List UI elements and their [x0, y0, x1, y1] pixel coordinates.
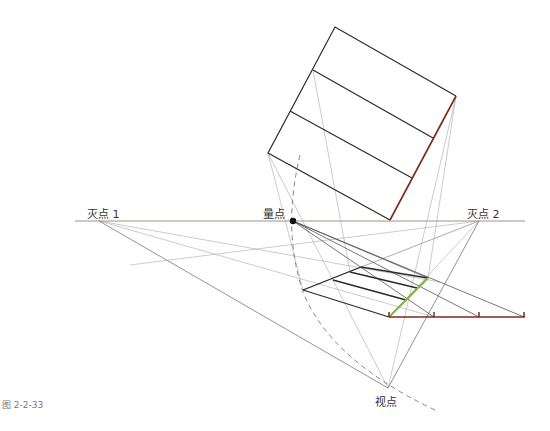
measure-point-dot [290, 218, 296, 224]
vp1-label: 灭点 1 [87, 205, 120, 221]
measure-point-label: 量点 [263, 205, 285, 221]
viewpoint-label: 视点 [375, 393, 397, 409]
plan-square [268, 27, 456, 220]
measuring-line [389, 312, 525, 317]
square-right-edge [390, 96, 456, 220]
construction-lines [99, 70, 524, 388]
figure-caption: 图 2-2-33 [2, 398, 43, 411]
floor-plan [303, 267, 428, 317]
vp2-label: 灭点 2 [467, 205, 500, 221]
